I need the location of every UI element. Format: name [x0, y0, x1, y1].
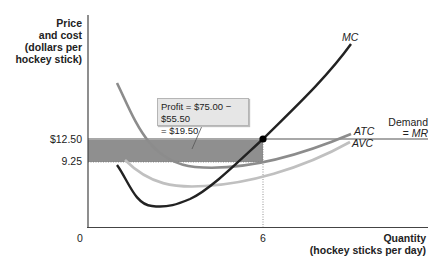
avc-label: AVC: [352, 137, 373, 149]
atc-label: ATC: [354, 125, 374, 137]
x-axis-label: Quantity (hockey sticks per day): [310, 232, 426, 256]
mc-label: MC: [342, 31, 358, 43]
y-tick-9-25: 9.25: [62, 155, 82, 167]
profit-max-point: [259, 135, 266, 142]
x-tick-0: 0: [77, 232, 83, 244]
profit-area: [88, 139, 263, 162]
x-tick-6: 6: [260, 232, 266, 244]
y-axis-label: Price and cost (dollars per hockey stick…: [15, 17, 82, 65]
callout-line1: Profit = $75.00 − $55.50: [161, 101, 245, 125]
y-tick-12-50: $12.50: [50, 133, 82, 145]
profit-callout: Profit = $75.00 − $55.50 = $19.50: [157, 98, 249, 126]
callout-line2: = $19.50: [161, 125, 245, 137]
demand-label-line2: = MR: [388, 128, 428, 139]
demand-mr-label: Demand = MR: [388, 117, 428, 139]
